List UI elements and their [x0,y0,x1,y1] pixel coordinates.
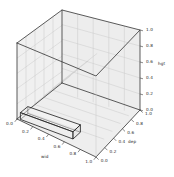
y-axis-label: dep [128,140,136,144]
y-tick-label-4: 0.8 [136,122,143,126]
z-tick-label-3: 0.6 [146,60,153,64]
tick-marks-z [140,30,143,111]
z-tick-label-5: 1.0 [146,28,153,32]
y-tick-label-2: 0.4 [118,140,125,144]
z-tick-label-4: 0.8 [146,44,153,48]
y-tick-label-1: 0.2 [110,150,117,154]
figure-canvas: 1.0 0.8 0.6 0.4 0.2 0.0 hgt 1.0 0.8 0.6 … [0,0,174,177]
x-tick-label-5: 1.0 [85,160,92,164]
x-axis-label: wid [41,155,49,159]
z-axis-label: hgt [158,62,165,66]
y-tick-label-0: 0.0 [101,159,108,163]
x-tick-label-0: 0.0 [6,122,13,126]
z-tick-label-1: 0.2 [146,92,153,96]
y-tick-label-3: 0.6 [127,131,134,135]
y-tick-label-5: 1.0 [145,112,152,116]
x-tick-label-2: 0.4 [38,137,45,141]
x-tick-label-3: 0.6 [54,145,61,149]
x-tick-label-1: 0.2 [22,130,29,134]
z-tick-label-2: 0.4 [146,76,153,80]
x-tick-label-4: 0.8 [69,152,76,156]
